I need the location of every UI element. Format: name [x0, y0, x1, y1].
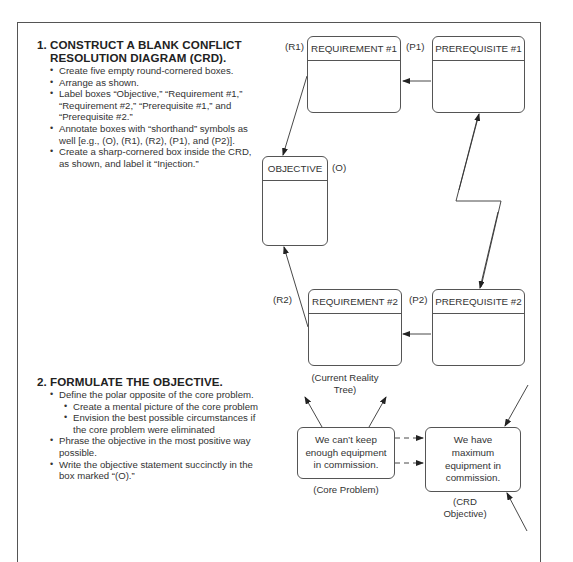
requirement-2-label: REQUIREMENT #2 — [309, 290, 401, 314]
prerequisite-1-box: PREREQUISITE #1 — [432, 36, 525, 113]
tag-r2: (R2) — [273, 294, 292, 305]
core-problem-box: We can’t keep enough equipment in commis… — [297, 427, 395, 479]
current-reality-tree-caption: (Current Reality Tree) — [305, 372, 385, 396]
prerequisite-2-label: PREREQUISITE #2 — [433, 290, 524, 314]
requirement-1-box: REQUIREMENT #1 — [307, 36, 401, 113]
arrow-crt-right — [369, 397, 386, 427]
tag-p1: (P1) — [406, 41, 425, 52]
arrow-r1-to-objective — [283, 76, 307, 155]
tag-p2: (P2) — [409, 294, 428, 305]
requirement-2-box: REQUIREMENT #2 — [308, 289, 402, 366]
requirement-1-label: REQUIREMENT #1 — [308, 37, 400, 61]
arrow-r2-to-objective — [284, 247, 308, 327]
prerequisite-2-box: PREREQUISITE #2 — [432, 289, 525, 366]
core-problem-caption: (Core Problem) — [300, 484, 392, 496]
arrow-into-objective-bottom — [507, 493, 527, 531]
conflict-zigzag — [456, 116, 501, 287]
crd-objective-box: We have maximum equipment in commission. — [425, 427, 521, 492]
crd-objective-caption: (CRD Objective) — [440, 496, 490, 520]
arrow-into-objective-top — [505, 385, 528, 426]
tag-o: (O) — [332, 162, 346, 173]
objective-box: OBJECTIVE — [262, 156, 328, 246]
objective-label: OBJECTIVE — [263, 157, 327, 181]
prerequisite-1-label: PREREQUISITE #1 — [433, 37, 524, 61]
tag-r1: (R1) — [285, 41, 304, 52]
arrow-crt-left — [305, 397, 322, 427]
